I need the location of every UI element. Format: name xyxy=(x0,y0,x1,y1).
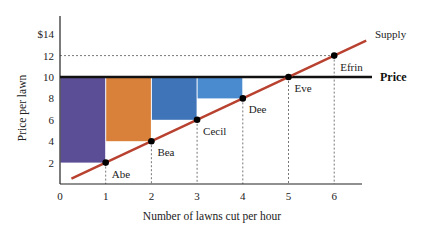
point-label-cecil: Cecil xyxy=(203,125,226,137)
y-tick-label: 10 xyxy=(43,71,55,83)
surplus-bar-bea xyxy=(106,77,151,141)
point-dee xyxy=(240,95,247,102)
y-tick-label: 6 xyxy=(49,114,55,126)
producer-surplus-chart: Price Supply AbeBeaCecilDeeEveEfrin 0123… xyxy=(0,0,429,232)
y-tick-label: $14 xyxy=(38,28,55,40)
point-eve xyxy=(285,74,292,81)
axes xyxy=(60,16,362,184)
supply-label: Supply xyxy=(375,28,407,40)
point-bea xyxy=(148,138,155,145)
x-tick-label: 6 xyxy=(331,190,337,202)
point-label-bea: Bea xyxy=(157,146,174,158)
x-tick-label: 0 xyxy=(57,190,63,202)
point-label-abe: Abe xyxy=(112,168,130,180)
y-tick-label: 8 xyxy=(49,92,55,104)
surplus-bar-cecil xyxy=(152,77,197,120)
x-tick-label: 3 xyxy=(194,190,200,202)
surplus-bar-dee xyxy=(198,77,243,98)
point-label-eve: Eve xyxy=(295,82,312,94)
x-tick-label: 2 xyxy=(149,190,155,202)
point-label-dee: Dee xyxy=(249,103,267,115)
x-tick-label: 1 xyxy=(103,190,109,202)
point-label-efrin: Efrin xyxy=(340,61,363,73)
price-label: Price xyxy=(380,70,407,84)
y-axis-label: Price per lawn xyxy=(16,75,29,142)
x-tick-label: 5 xyxy=(286,190,292,202)
y-tick-label: 12 xyxy=(43,50,54,62)
point-abe xyxy=(102,159,109,166)
y-tick-label: 4 xyxy=(49,135,55,147)
surplus-bar-abe xyxy=(61,77,106,163)
x-tick-label: 4 xyxy=(240,190,246,202)
x-axis-label: Number of lawns cut per hour xyxy=(143,210,281,223)
point-cecil xyxy=(194,117,201,124)
y-tick-label: 2 xyxy=(49,157,55,169)
point-efrin xyxy=(331,52,338,59)
